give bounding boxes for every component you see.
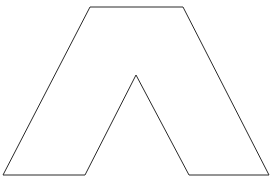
diagram-canvas — [0, 0, 270, 183]
a-frame-polygon — [3, 7, 269, 175]
diagram-svg — [0, 0, 270, 183]
